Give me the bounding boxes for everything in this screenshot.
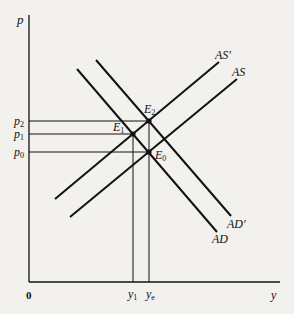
label-ye: ye	[145, 287, 155, 302]
label-as-prime: AS'	[214, 48, 231, 62]
label-e2: E2	[143, 102, 155, 117]
label-as: AS	[231, 65, 245, 79]
point-e1	[130, 131, 135, 136]
origin-label: 0	[26, 289, 32, 301]
label-e0: E0	[154, 148, 166, 163]
as-ad-diagram: p y 0 p2 p1 p0 y1 ye AS' AS AD' AD E2 E1…	[0, 0, 294, 314]
label-ad-prime: AD'	[226, 217, 246, 231]
label-y1: y1	[127, 287, 137, 302]
diagram-canvas: p y 0 p2 p1 p0 y1 ye AS' AS AD' AD E2 E1…	[0, 0, 294, 314]
point-e2	[146, 118, 151, 123]
y-axis-label: p	[16, 12, 24, 27]
point-e0	[146, 149, 151, 154]
label-p0: p0	[13, 145, 24, 160]
label-ad: AD	[211, 232, 228, 246]
curve-ad-prime	[96, 60, 231, 216]
curve-as-prime	[55, 62, 219, 199]
curve-as	[70, 79, 237, 217]
label-p1: p1	[13, 127, 24, 142]
x-axis-label: y	[270, 288, 277, 302]
